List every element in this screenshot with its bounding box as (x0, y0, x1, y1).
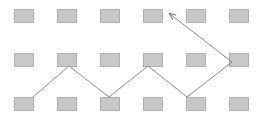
path-arrow (0, 0, 261, 115)
zigzag-arrow-line (33, 14, 232, 97)
zigzag-path-diagram (0, 0, 261, 115)
